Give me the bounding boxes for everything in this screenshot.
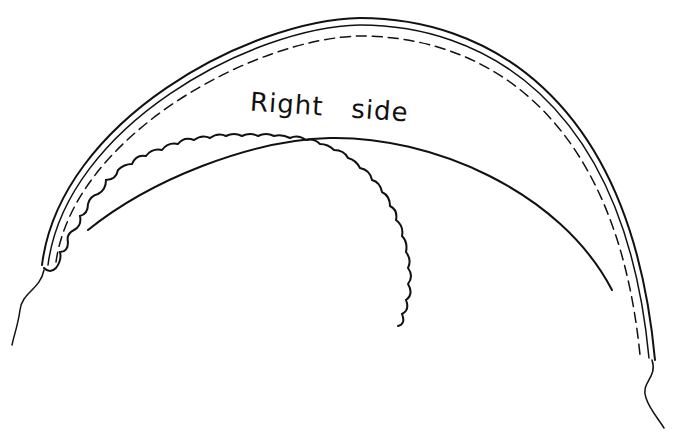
arc-band-drawing bbox=[0, 0, 694, 434]
label-word-right: Right bbox=[249, 86, 324, 121]
label-word-side: side bbox=[350, 94, 409, 128]
sketch-canvas: Rightside bbox=[0, 0, 694, 434]
